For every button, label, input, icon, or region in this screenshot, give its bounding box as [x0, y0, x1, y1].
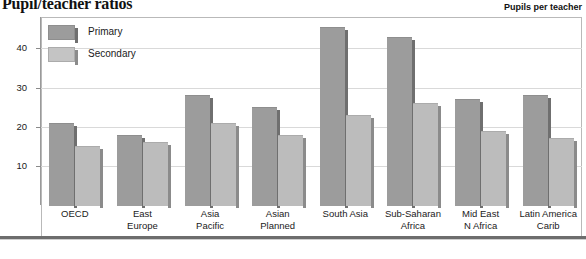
bar-secondary — [481, 131, 506, 205]
y-axis-tick-label: 10 — [1, 160, 27, 171]
bar-primary — [185, 95, 210, 205]
x-axis-category-label: Latin AmericaCarib — [514, 208, 582, 231]
x-axis-category-label: OECD — [41, 208, 109, 220]
bar-primary — [49, 123, 74, 205]
plot-area: 10203040 — [41, 17, 582, 205]
legend-label-primary: Primary — [88, 26, 122, 37]
bar-primary — [387, 37, 412, 205]
bar-primary — [523, 95, 548, 205]
legend-swatch-primary-icon — [48, 25, 75, 40]
bar-secondary — [549, 138, 574, 205]
y-axis-tick-label: 20 — [1, 121, 27, 132]
x-axis-category-label: AsianPlanned — [244, 208, 312, 231]
gridline — [41, 88, 582, 89]
page-title: Pupil/teacher ratios — [2, 0, 132, 13]
bar-secondary — [346, 115, 371, 205]
bar-secondary — [413, 103, 438, 205]
y-axis-tick-label: 30 — [1, 82, 27, 93]
x-axis-category-label: AsiaPacific — [176, 208, 244, 231]
legend-swatch-secondary-icon — [48, 47, 75, 62]
y-axis-tick-mark — [36, 127, 41, 128]
bar-secondary — [143, 142, 168, 205]
bar-primary — [117, 135, 142, 206]
bar-primary — [455, 99, 480, 205]
bar-primary — [320, 27, 345, 205]
bottom-rule-secondary — [0, 239, 586, 240]
axis-note-label: Pupils per teacher — [504, 2, 582, 12]
x-axis-category-label: South Asia — [312, 208, 380, 220]
x-axis-category-label: Mid EastN Africa — [447, 208, 515, 231]
bar-primary — [252, 107, 277, 205]
y-axis-tick-mark — [36, 166, 41, 167]
gridline — [41, 127, 582, 128]
y-axis-tick-label: 40 — [1, 42, 27, 53]
x-axis-category-label: Sub-SaharanAfrica — [379, 208, 447, 231]
x-axis-category-label: EastEurope — [109, 208, 177, 231]
y-axis-tick-mark — [36, 88, 41, 89]
bar-secondary — [75, 146, 100, 205]
legend-label-secondary: Secondary — [88, 48, 136, 59]
y-axis-tick-mark — [36, 48, 41, 49]
bar-secondary — [278, 135, 303, 206]
bar-secondary — [211, 123, 236, 205]
